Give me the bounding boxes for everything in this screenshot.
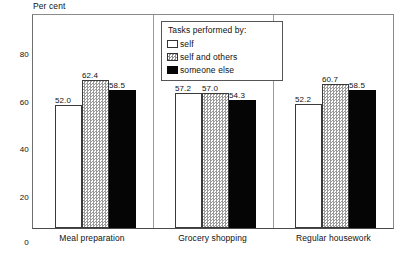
bar-meal-preparation-someone-else: 58.5	[109, 90, 136, 228]
y-axis-tick-labels: 80 60 40 20 0	[0, 0, 29, 262]
y-tick-label: 60	[3, 99, 29, 107]
bar-value-label: 58.5	[349, 81, 365, 90]
bar-chart: Per cent 80 60 40 20 0 52.0 62.4 58.5	[0, 0, 407, 262]
legend-item-someone-else: someone else	[167, 64, 277, 76]
bar-value-label: 52.0	[55, 96, 71, 105]
bar-grocery-shopping-self: 57.2	[175, 93, 202, 228]
y-tick-label: 0	[3, 239, 29, 247]
legend-item-label: self and others	[180, 52, 237, 62]
bar-grocery-shopping-self-and-others: 57.0	[202, 93, 229, 228]
chart-legend: Tasks performed by: self self and others…	[161, 21, 283, 81]
y-tick-label: 80	[3, 51, 29, 59]
bar-value-label: 54.3	[229, 91, 245, 100]
bar-value-label: 57.0	[202, 84, 218, 93]
legend-item-label: someone else	[180, 65, 234, 75]
bar-regular-housework-self-and-others: 60.7	[322, 84, 349, 228]
white-outline-swatch-icon	[167, 40, 178, 48]
y-tick-label: 40	[3, 146, 29, 154]
bar-value-label: 60.7	[322, 75, 338, 84]
bar-meal-preparation-self-and-others: 62.4	[82, 80, 109, 228]
bar-value-label: 52.2	[295, 95, 311, 104]
category-label-regular-housework: Regular housework	[273, 233, 394, 244]
bar-regular-housework-self: 52.2	[295, 104, 322, 228]
legend-title: Tasks performed by:	[168, 25, 277, 36]
category-label-grocery-shopping: Grocery shopping	[153, 233, 272, 244]
bar-meal-preparation-self: 52.0	[55, 105, 82, 228]
solid-black-swatch-icon	[167, 66, 178, 74]
bar-group-meal-preparation: 52.0 62.4 58.5	[33, 15, 153, 228]
bar-grocery-shopping-someone-else: 54.3	[229, 100, 256, 228]
bar-value-label: 58.5	[109, 81, 125, 90]
legend-item-self-and-others: self and others	[167, 51, 277, 63]
y-tick-label: 20	[3, 194, 29, 202]
bar-value-label: 57.2	[175, 84, 191, 93]
legend-item-self: self	[167, 38, 277, 50]
bar-group-regular-housework: 52.2 60.7 58.5	[274, 15, 393, 228]
dithered-gray-swatch-icon	[167, 53, 178, 61]
bar-value-label: 62.4	[82, 71, 98, 80]
y-axis-title: Per cent	[33, 1, 65, 12]
legend-item-label: self	[180, 39, 194, 49]
category-label-meal-preparation: Meal preparation	[32, 233, 152, 244]
bar-regular-housework-someone-else: 58.5	[349, 90, 376, 228]
